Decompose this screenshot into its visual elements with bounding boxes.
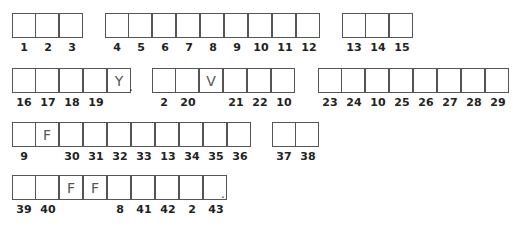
word-group: 9F3031323313343536 xyxy=(12,122,252,164)
cipher-number: 16 xyxy=(12,96,36,110)
letter-cell: F xyxy=(36,122,60,164)
letter-input-box[interactable] xyxy=(318,68,342,93)
cipher-number: 13 xyxy=(342,41,366,55)
letter-cell: 15 xyxy=(390,13,414,55)
letter-input-box[interactable] xyxy=(35,13,59,38)
letter-input-box[interactable] xyxy=(35,68,59,93)
letter-input-box[interactable] xyxy=(200,13,224,38)
letter-input-box[interactable]: F xyxy=(83,175,107,200)
letter-input-box[interactable] xyxy=(12,122,36,147)
letter-input-box[interactable] xyxy=(461,68,485,93)
letter-cell: 29 xyxy=(486,68,510,110)
letter-cell: 5 xyxy=(129,13,153,55)
letter-input-box[interactable] xyxy=(389,68,413,93)
letter-input-box[interactable] xyxy=(131,175,155,200)
letter-input-box[interactable] xyxy=(389,13,413,38)
letter-input-box[interactable] xyxy=(203,122,227,147)
letter-input-box[interactable] xyxy=(128,13,152,38)
letter-input-box[interactable] xyxy=(59,68,83,93)
letter-input-box[interactable] xyxy=(272,13,296,38)
letter-input-box[interactable] xyxy=(83,68,107,93)
cipher-number: 22 xyxy=(248,96,272,110)
cipher-number: 2 xyxy=(180,203,204,217)
cipher-number: 39 xyxy=(12,203,36,217)
letter-input-box[interactable] xyxy=(341,68,365,93)
letter-input-box[interactable] xyxy=(83,122,107,147)
cipher-number: 32 xyxy=(108,150,132,164)
letter-input-box[interactable] xyxy=(107,175,131,200)
word-group: 3738 xyxy=(272,122,320,164)
cipher-number: 21 xyxy=(224,96,248,110)
cipher-number: 10 xyxy=(249,41,273,55)
letter-input-box[interactable] xyxy=(152,68,176,93)
letter-cell: 6 xyxy=(153,13,177,55)
letter-input-box[interactable] xyxy=(365,68,389,93)
letter-input-box[interactable] xyxy=(413,68,437,93)
letter-input-box[interactable] xyxy=(12,175,36,200)
letter-input-box[interactable] xyxy=(35,175,59,200)
letter-input-box[interactable] xyxy=(223,68,247,93)
letter-cell: 34 xyxy=(180,122,204,164)
cipher-number: 28 xyxy=(462,96,486,110)
cipher-number: 2 xyxy=(152,96,176,110)
cipher-number: 29 xyxy=(486,96,510,110)
letter-input-box[interactable] xyxy=(175,68,199,93)
letter-cell: F xyxy=(60,175,84,217)
letter-input-box[interactable] xyxy=(248,13,272,38)
cipher-number: 8 xyxy=(201,41,225,55)
letter-cell: 10 xyxy=(272,68,296,110)
word-group: 123 xyxy=(12,13,84,55)
letter-cell: 22 xyxy=(248,68,272,110)
letter-cell: 2 xyxy=(180,175,204,217)
letter-input-box[interactable] xyxy=(59,122,83,147)
letter-cell: 10 xyxy=(249,13,273,55)
letter-cell: 4 xyxy=(105,13,129,55)
sentence-period: . xyxy=(221,187,225,201)
letter-input-box[interactable]: F xyxy=(59,175,83,200)
letter-input-box[interactable] xyxy=(176,13,200,38)
cipher-number: 15 xyxy=(390,41,414,55)
cipher-number: 30 xyxy=(60,150,84,164)
letter-input-box[interactable] xyxy=(105,13,129,38)
cipher-number xyxy=(84,203,108,217)
letter-input-box[interactable] xyxy=(247,68,271,93)
cipher-number: 10 xyxy=(366,96,390,110)
letter-input-box[interactable] xyxy=(295,122,319,147)
letter-cell: 9 xyxy=(225,13,249,55)
letter-input-box[interactable] xyxy=(271,68,295,93)
cipher-number: 9 xyxy=(225,41,249,55)
letter-input-box[interactable] xyxy=(485,68,509,93)
letter-input-box[interactable]: F xyxy=(35,122,59,147)
letter-input-box[interactable] xyxy=(224,13,248,38)
cipher-number: 1 xyxy=(12,41,36,55)
letter-input-box[interactable] xyxy=(12,68,36,93)
letter-input-box[interactable]: V xyxy=(199,68,223,93)
letter-input-box[interactable] xyxy=(152,13,176,38)
letter-input-box[interactable] xyxy=(107,122,131,147)
letter-input-box[interactable] xyxy=(296,13,320,38)
letter-cell: 7 xyxy=(177,13,201,55)
letter-input-box[interactable] xyxy=(437,68,461,93)
cipher-number: 3 xyxy=(60,41,84,55)
cipher-number xyxy=(200,96,224,110)
letter-input-box[interactable] xyxy=(342,13,366,38)
cipher-number: 7 xyxy=(177,41,201,55)
letter-cell: 8 xyxy=(108,175,132,217)
letter-input-box[interactable] xyxy=(131,122,155,147)
letter-input-box[interactable] xyxy=(59,13,83,38)
letter-input-box[interactable] xyxy=(179,175,203,200)
letter-input-box[interactable] xyxy=(155,175,179,200)
letter-input-box[interactable] xyxy=(365,13,389,38)
letter-input-box[interactable]: Y xyxy=(107,68,131,93)
letter-cell: 8 xyxy=(201,13,225,55)
letter-input-box[interactable] xyxy=(12,13,36,38)
letter-input-box[interactable] xyxy=(179,122,203,147)
cipher-number: 24 xyxy=(342,96,366,110)
cipher-number: 9 xyxy=(12,150,36,164)
letter-cell: 41 xyxy=(132,175,156,217)
letter-input-box[interactable] xyxy=(272,122,296,147)
letter-cell: 20 xyxy=(176,68,200,110)
letter-input-box[interactable] xyxy=(155,122,179,147)
letter-cell: 21 xyxy=(224,68,248,110)
letter-input-box[interactable] xyxy=(227,122,251,147)
